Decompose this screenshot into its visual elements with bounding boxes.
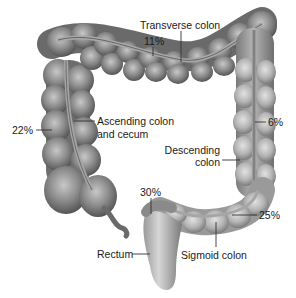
label-descending-line1: Descending bbox=[164, 144, 220, 156]
percent-sigmoid: 25% bbox=[259, 209, 280, 221]
ascending-colon bbox=[41, 59, 127, 236]
label-ascending-line2: and cecum bbox=[97, 128, 148, 140]
label-sigmoid-colon: Sigmoid colon bbox=[181, 249, 247, 261]
descending-colon bbox=[233, 28, 276, 198]
label-ascending-line1: Ascending colon bbox=[97, 115, 174, 127]
percent-transverse: 11% bbox=[144, 35, 164, 47]
label-descending-line2: colon bbox=[164, 156, 220, 168]
percent-descending: 6% bbox=[268, 116, 283, 128]
label-rectum: Rectum bbox=[97, 248, 133, 260]
label-transverse-colon: Transverse colon bbox=[140, 19, 220, 31]
percent-ascending: 22% bbox=[12, 124, 33, 136]
percent-rectum: 30% bbox=[140, 186, 161, 198]
